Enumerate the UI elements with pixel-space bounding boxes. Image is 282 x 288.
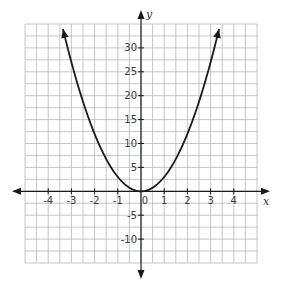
- svg-text:-10: -10: [121, 234, 137, 245]
- svg-text:1: 1: [161, 195, 167, 206]
- svg-text:-4: -4: [43, 195, 53, 206]
- svg-text:4: 4: [231, 195, 237, 206]
- svg-text:-5: -5: [127, 210, 137, 221]
- svg-text:3: 3: [207, 195, 213, 206]
- y-axis-label: y: [145, 8, 153, 21]
- svg-text:15: 15: [124, 114, 137, 125]
- svg-text:5: 5: [131, 162, 137, 173]
- svg-text:2: 2: [184, 195, 190, 206]
- svg-text:25: 25: [124, 66, 137, 77]
- svg-text:30: 30: [124, 42, 137, 53]
- svg-text:-2: -2: [90, 195, 100, 206]
- x-axis-label: x: [263, 195, 270, 208]
- svg-text:-1: -1: [113, 195, 123, 206]
- svg-text:-3: -3: [66, 195, 76, 206]
- svg-text:0: 0: [142, 195, 148, 206]
- svg-text:20: 20: [124, 90, 137, 101]
- svg-text:10: 10: [124, 138, 137, 149]
- chart-plot: -4-3-2-101234-10-551015202530 x y: [0, 0, 282, 288]
